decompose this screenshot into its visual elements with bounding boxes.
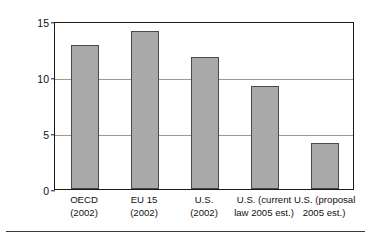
x-axis-label-line2: law 2005 est.)	[234, 207, 294, 220]
x-axis-label-line1: U.S. (proposal	[294, 194, 355, 205]
x-axis-label-line1: OECD	[70, 194, 98, 205]
y-tick-label: 10	[37, 73, 49, 85]
x-axis-label: U.S. (proposal2005 est.)	[294, 194, 354, 219]
x-axis-label-line2: (2002)	[54, 207, 114, 220]
x-axis-label-line2: (2002)	[114, 207, 174, 220]
bar	[251, 86, 279, 189]
bar	[131, 31, 159, 189]
x-axis-label-line1: U.S.	[195, 194, 214, 205]
x-axis-label-line2: (2002)	[174, 207, 234, 220]
y-tick-mark	[51, 78, 55, 79]
x-axis-label: OECD(2002)	[54, 194, 114, 219]
x-axis-label: U.S. (currentlaw 2005 est.)	[234, 194, 294, 219]
x-axis-label: EU 15(2002)	[114, 194, 174, 219]
x-axis-label: U.S.(2002)	[174, 194, 234, 219]
bar	[71, 45, 99, 189]
y-tick-mark	[51, 22, 55, 23]
y-tick-label: 0	[43, 185, 49, 197]
plot-area: 051015	[54, 22, 354, 190]
y-tick-label: 15	[37, 17, 49, 29]
y-tick-mark	[51, 134, 55, 135]
footer-divider	[6, 231, 365, 232]
y-tick-mark	[51, 190, 55, 191]
x-axis-label-line1: EU 15	[131, 194, 158, 205]
x-axis-label-line1: U.S. (current	[237, 194, 291, 205]
bar	[311, 143, 339, 189]
y-tick-label: 5	[43, 129, 49, 141]
x-axis-label-line2: 2005 est.)	[294, 207, 354, 220]
bar	[191, 57, 219, 189]
bar-chart-figure: Percentage of GDP 051015 OECD(2002)EU 15…	[0, 0, 371, 242]
